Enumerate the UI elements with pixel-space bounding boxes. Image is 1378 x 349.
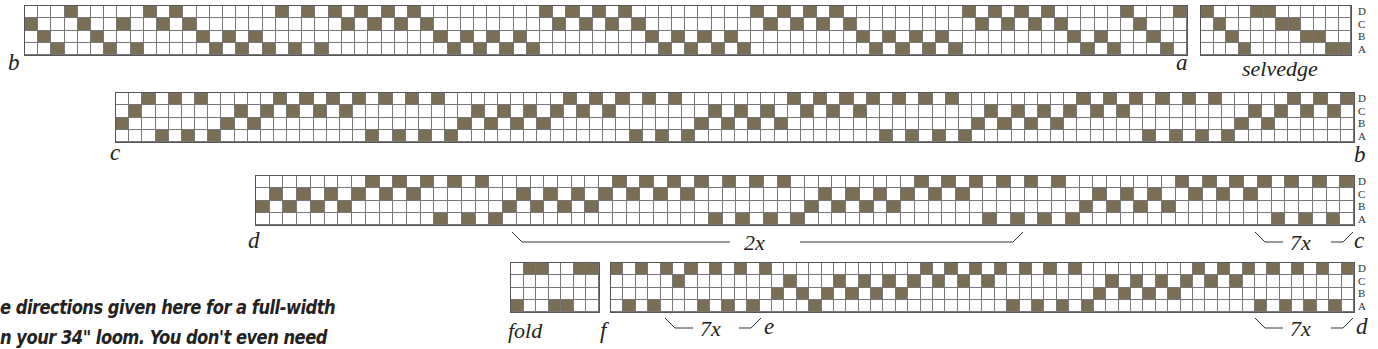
draft-cell [1313,201,1327,213]
draft-cell [775,118,788,130]
draft-cell [1095,31,1108,43]
draft-cell [606,43,619,55]
draft-cell [524,93,537,105]
draft-cell [989,18,1002,30]
draft-cell [750,176,764,188]
draft-cell [366,188,380,200]
draft-cell [1143,130,1156,142]
threading-draft-row-1 [24,5,1188,56]
draft-cell [982,275,994,287]
draft-cell [778,6,791,18]
draft-cell [593,31,606,43]
draft-cell [712,31,725,43]
draft-cell [1064,93,1077,105]
draft-cell [846,201,860,213]
draft-cell [682,93,695,105]
draft-cell [1196,130,1209,142]
draft-cell [544,188,558,200]
draft-cell [590,93,603,105]
draft-cell [1081,18,1094,30]
draft-cell [1258,213,1272,225]
draft-cell [586,275,599,287]
draft-cell [822,300,834,312]
draft-cell [300,130,313,142]
draft-cell [1262,105,1275,117]
draft-cell [801,130,814,142]
draft-cell [1217,188,1231,200]
draft-cell [342,6,355,18]
draft-cell [1183,130,1196,142]
draft-cell [970,300,982,312]
label-d-end: d [1356,314,1368,340]
draft-cell [942,213,956,225]
draft-cell [407,201,421,213]
draft-cell [1341,118,1354,130]
draft-cell [887,201,901,213]
draft-cell [901,213,915,225]
draft-cell [949,18,962,30]
draft-cell [1106,300,1118,312]
draft-cell [458,93,471,105]
draft-cell [738,18,751,30]
draft-cell [297,176,311,188]
draft-cell [1068,31,1081,43]
draft-cell [623,300,635,312]
draft-cell [223,31,236,43]
draft-cell [1218,275,1230,287]
draft-cell [1214,31,1227,43]
draft-cell [1201,31,1214,43]
draft-cell [1015,31,1028,43]
draft-cell [619,31,632,43]
draft-cell [648,263,660,275]
draft-cell [1064,130,1077,142]
draft-cell [616,93,629,105]
draft-cell [434,18,447,30]
draft-cell [760,275,772,287]
draft-cell [1156,300,1168,312]
draft-cell [1342,288,1354,300]
draft-cell [611,300,623,312]
draft-cell [572,188,586,200]
draft-cell [1342,275,1354,287]
draft-cell [643,93,656,105]
draft-cell [395,6,408,18]
draft-cell [1042,6,1055,18]
draft-cell [1121,201,1135,213]
draft-cell [235,105,248,117]
draft-cell [883,275,895,287]
draft-cell [514,18,527,30]
draft-cell [1289,43,1302,55]
draft-cell [636,275,648,287]
draft-cell [1162,213,1176,225]
draft-cell [698,275,710,287]
draft-cell [157,18,170,30]
draft-cell [511,263,524,275]
draft-cell [1272,188,1286,200]
draft-cell [1301,130,1314,142]
draft-cell [1055,18,1068,30]
draft-cell [434,213,448,225]
draft-cell [896,263,908,275]
draft-cell [1143,105,1156,117]
draft-cell [1029,31,1042,43]
draft-cell [797,263,809,275]
draft-cell [1251,6,1264,18]
draft-cell [1222,130,1235,142]
draft-cell [448,213,462,225]
draft-cell [682,130,695,142]
draft-cell [659,18,672,30]
draft-cell [1222,93,1235,105]
draft-cell [750,201,764,213]
draft-cell [419,118,432,130]
draft-cell [832,176,846,188]
shaft-c: C [1358,188,1366,201]
draft-cell [698,263,710,275]
draft-cell [1077,93,1090,105]
draft-cell [353,118,366,130]
draft-cell [329,6,342,18]
draft-cell [558,188,572,200]
draft-cell [747,263,759,275]
draft-cell [524,288,537,300]
draft-cell [859,263,871,275]
draft-cell [723,201,737,213]
